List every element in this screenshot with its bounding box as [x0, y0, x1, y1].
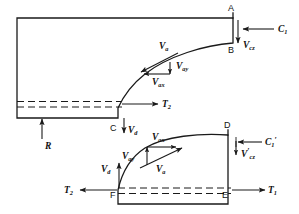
- label-point-c: C: [110, 123, 117, 133]
- label-vcz-prime-lower: V′cz: [241, 147, 255, 161]
- label-vay-upper: Vay: [176, 61, 188, 72]
- label-c1-prime-lower: C1′: [265, 136, 277, 149]
- label-c1-upper: C1: [278, 24, 288, 35]
- label-point-e: E: [222, 190, 228, 200]
- upper-body-outline: [17, 18, 233, 118]
- label-point-b: B: [228, 45, 234, 55]
- label-vax-upper: Vax: [152, 77, 165, 88]
- label-t2-upper: T2: [162, 99, 171, 110]
- upper-body-group: [17, 18, 233, 118]
- label-vcz-upper: Vcz: [243, 40, 255, 51]
- diagram-canvas: A B C D E F R C1 Vcz Va Vay Vax T2 Vd C1…: [0, 0, 299, 214]
- label-point-a: A: [228, 3, 234, 13]
- label-vay-lower: Vay: [122, 151, 134, 162]
- label-vax-lower: Vax: [152, 132, 165, 143]
- label-point-f: F: [110, 190, 116, 200]
- label-vd-upper: Vd: [128, 125, 138, 136]
- vector-diagram-svg: A B C D E F R C1 Vcz Va Vay Vax T2 Vd C1…: [0, 0, 299, 214]
- lower-body-group: [118, 134, 231, 204]
- label-point-d: D: [224, 120, 231, 130]
- label-r: R: [44, 141, 51, 151]
- label-t1-lower: T1: [268, 185, 277, 196]
- label-t2-lower: T2: [64, 185, 73, 196]
- label-vd-lower: Vd: [101, 164, 111, 175]
